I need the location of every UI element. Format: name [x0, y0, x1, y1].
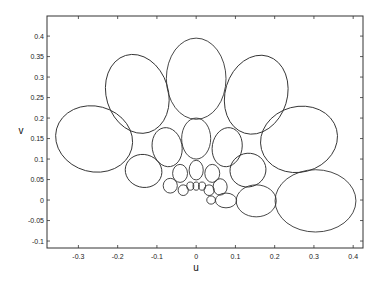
y-tick-label: 0.35 — [30, 53, 44, 60]
x-tick-label: -0.1 — [151, 253, 163, 260]
x-axis-ticks: -0.3-0.2-0.100.10.20.30.4 — [72, 16, 358, 260]
y-axis-label: v — [19, 125, 24, 136]
ellipse-6 — [149, 125, 185, 169]
x-tick-label: 0.2 — [270, 253, 280, 260]
x-tick-label: 0.1 — [231, 253, 241, 260]
ellipse-3 — [166, 38, 226, 119]
y-tick-label: 0.1 — [34, 156, 44, 163]
x-tick-label: 0.3 — [309, 253, 319, 260]
ellipse-23 — [236, 185, 276, 217]
y-tick-label: 0.15 — [30, 135, 44, 142]
y-tick-label: 0.4 — [34, 33, 44, 40]
ellipse-8 — [209, 125, 245, 169]
x-tick-label: -0.2 — [112, 253, 124, 260]
y-tick-label: -0.05 — [28, 217, 44, 224]
ellipse-7 — [182, 118, 211, 159]
y-axis-ticks: -0.1-0.0500.050.10.150.20.250.30.350.4 — [28, 33, 363, 245]
ellipse-5 — [253, 98, 345, 181]
y-tick-label: 0.3 — [34, 74, 44, 81]
ellipse-12 — [189, 160, 203, 180]
y-tick-label: 0.2 — [34, 115, 44, 122]
ellipse-10 — [226, 149, 270, 191]
ellipse-24 — [275, 170, 356, 232]
y-tick-label: -0.1 — [32, 238, 44, 245]
y-tick-label: 0.05 — [30, 176, 44, 183]
y-tick-label: 0 — [40, 197, 44, 204]
y-tick-label: 0.25 — [30, 94, 44, 101]
ellipse-2 — [96, 46, 179, 141]
ellipse-plot: -0.3-0.2-0.100.10.20.30.4 -0.1-0.0500.05… — [0, 0, 381, 286]
ellipse-22 — [215, 193, 236, 208]
x-tick-label: 0 — [194, 253, 198, 260]
ellipse-1 — [48, 97, 140, 180]
ellipse-14 — [163, 178, 177, 193]
ellipse-21 — [207, 196, 216, 204]
x-axis-label: u — [193, 262, 199, 273]
ellipse-group — [48, 38, 356, 232]
x-tick-label: 0.4 — [348, 253, 358, 260]
x-tick-label: -0.3 — [72, 253, 84, 260]
axes-frame — [47, 16, 363, 248]
